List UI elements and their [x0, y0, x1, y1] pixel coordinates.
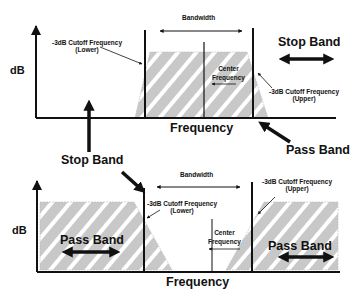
top-lower-cutoff-label: -3dB Cutoff Frequency (Lower) [52, 40, 122, 53]
bottom-bandwidth-label: Bandwidth [180, 172, 213, 179]
top-stopband-label: Stop Band [278, 36, 341, 49]
bottom-upper-cutoff-label: -3dB Cutoff Frequency (Upper) [262, 179, 332, 192]
top-y-axis-label: dB [10, 65, 25, 76]
bottom-center-label: Center Frequency [208, 230, 241, 245]
bottom-y-axis-label: dB [12, 225, 27, 236]
top-upper-cutoff-leader [258, 73, 272, 88]
bottom-left-passband-label: Pass Band [60, 234, 124, 247]
bottom-right-passband-area [226, 202, 338, 270]
top-bandwidth-label: Bandwidth [182, 15, 215, 22]
top-passband-area [135, 52, 268, 118]
bottom-lower-cutoff-label: -3dB Cutoff Frequency (Lower) [147, 201, 217, 214]
top-center-label: Center Frequency [212, 66, 245, 81]
bottom-x-axis-label: Frequency [166, 276, 229, 289]
bottom-right-passband-label: Pass Band [268, 240, 332, 253]
stopband-diagonal-arrow [122, 172, 142, 190]
top-upper-cutoff-label: -3dB Cutoff Frequency (Upper) [269, 89, 339, 102]
top-x-axis-label: Frequency [170, 122, 233, 135]
passband-pointer-label: Pass Band [286, 144, 350, 157]
passband-pointer-arrow [262, 124, 290, 142]
stopband-middle-label: Stop Band [61, 154, 124, 167]
